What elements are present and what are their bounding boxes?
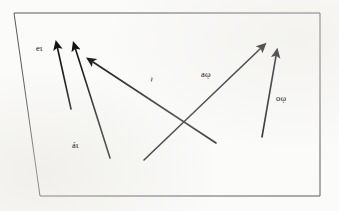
arrow-label-2: áι: [72, 141, 78, 150]
arrow-vector-2: [76, 49, 111, 158]
quadrilateral-border: [14, 13, 320, 196]
figure-canvas: eι áι ι aῳ oῳ: [0, 0, 339, 211]
diagram-svg: [0, 0, 339, 211]
arrow-vector-1: [58, 48, 72, 109]
arrow-vector-4: [144, 49, 261, 161]
arrow-label-1: eι: [36, 44, 42, 53]
arrow-vector-5: [262, 56, 276, 137]
arrow-vector-3: [93, 62, 216, 143]
arrow-label-4: aῳ: [201, 70, 211, 79]
arrow-label-5: oῳ: [276, 94, 286, 103]
